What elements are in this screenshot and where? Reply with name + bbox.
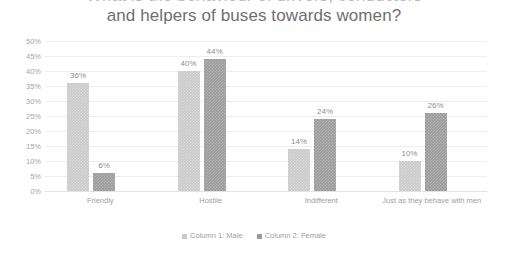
- legend-swatch-icon: [182, 234, 187, 239]
- y-axis-tick-label: 45%: [0, 52, 41, 61]
- legend-item[interactable]: Column 2: Female: [257, 231, 326, 241]
- y-axis-tick-label: 40%: [0, 67, 41, 76]
- y-axis: 50%45%40%35%30%25%20%15%10%5%0%: [0, 36, 41, 196]
- x-axis-category-label: Hostile: [156, 196, 267, 206]
- bar-group: 10%26%: [377, 41, 488, 191]
- x-axis-category-label: Just as they behave with men: [377, 196, 488, 206]
- axis-baseline: [45, 191, 487, 192]
- y-axis-tick-label: 5%: [0, 172, 41, 181]
- legend-label: Column 1: Male: [190, 231, 243, 241]
- y-axis-tick-label: 35%: [0, 82, 41, 91]
- bar-group: 14%24%: [266, 41, 377, 191]
- legend-swatch-icon: [257, 234, 262, 239]
- bar-value-label: 14%: [282, 137, 316, 147]
- bar-value-label: 24%: [308, 107, 342, 117]
- x-axis: FriendlyHostileIndifferentJust as they b…: [45, 196, 487, 226]
- y-axis-tick-label: 0%: [0, 187, 41, 196]
- bar-group: 36%6%: [45, 41, 156, 191]
- bar-value-label: 6%: [87, 161, 121, 171]
- bar-male[interactable]: [178, 71, 200, 191]
- y-axis-tick-label: 20%: [0, 127, 41, 136]
- bar-male[interactable]: [288, 149, 310, 191]
- bar-value-label: 36%: [61, 71, 95, 81]
- chart-title-line: and helpers of buses towards women?: [0, 6, 508, 26]
- bar-female[interactable]: [93, 173, 115, 191]
- bar-male[interactable]: [67, 83, 89, 191]
- bar-male[interactable]: [399, 161, 421, 191]
- bars-layer: 36%6%40%44%14%24%10%26%: [45, 41, 487, 191]
- legend-item[interactable]: Column 1: Male: [182, 231, 243, 241]
- legend-label: Column 2: Female: [265, 231, 326, 241]
- y-axis-tick-label: 10%: [0, 157, 41, 166]
- bar-value-label: 44%: [198, 47, 232, 57]
- y-axis-tick-label: 50%: [0, 37, 41, 46]
- bar-value-label: 40%: [172, 59, 206, 69]
- x-axis-category-label: Indifferent: [266, 196, 377, 206]
- y-axis-tick-label: 25%: [0, 112, 41, 121]
- chart-legend: Column 1: MaleColumn 2: Female: [0, 231, 508, 241]
- chart-title: What is the behaviour of drivers, conduc…: [0, 0, 508, 26]
- bar-value-label: 26%: [419, 101, 453, 111]
- bar-female[interactable]: [314, 119, 336, 191]
- bar-female[interactable]: [204, 59, 226, 191]
- bar-female[interactable]: [425, 113, 447, 191]
- bar-group: 40%44%: [156, 41, 267, 191]
- y-axis-tick-label: 15%: [0, 142, 41, 151]
- bar-value-label: 10%: [393, 149, 427, 159]
- y-axis-tick-label: 30%: [0, 97, 41, 106]
- x-axis-category-label: Friendly: [45, 196, 156, 206]
